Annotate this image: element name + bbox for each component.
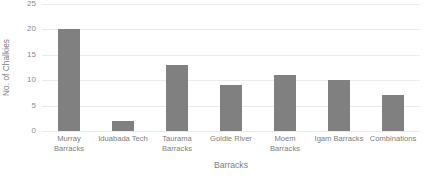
x-axis-tick-label: Igam Barracks bbox=[312, 134, 366, 144]
bar[interactable] bbox=[382, 95, 404, 131]
y-axis-title: No. of Chalkies bbox=[0, 0, 14, 135]
clipped-chart-title bbox=[42, 0, 420, 3]
x-axis-tick-label: Moem Barracks bbox=[258, 134, 312, 153]
bar-slot bbox=[312, 4, 366, 131]
bar[interactable] bbox=[274, 75, 296, 131]
y-axis-tick-label: 5 bbox=[32, 102, 36, 110]
bars-layer bbox=[42, 4, 420, 131]
y-axis-tick-label: 0 bbox=[32, 127, 36, 135]
bar[interactable] bbox=[166, 65, 188, 131]
x-axis-tick-label: Murray Barracks bbox=[42, 134, 96, 153]
x-axis-tick-label: Taurama Barracks bbox=[150, 134, 204, 153]
bar-slot bbox=[366, 4, 420, 131]
y-axis-tick-label: 20 bbox=[27, 25, 36, 33]
x-axis-title: Barracks bbox=[42, 160, 420, 170]
bar-slot bbox=[42, 4, 96, 131]
y-axis-tick-label: 15 bbox=[27, 51, 36, 59]
x-axis-tick-labels: Murray BarracksIduabada TechTaurama Barr… bbox=[42, 134, 420, 162]
bar[interactable] bbox=[112, 121, 134, 131]
gridline bbox=[42, 131, 420, 132]
y-axis-tick-label: 25 bbox=[27, 0, 36, 8]
bar-chart: No. of Chalkies 0510152025 Murray Barrac… bbox=[0, 0, 428, 183]
x-axis-tick-label: Combinations bbox=[366, 134, 420, 144]
bar-slot bbox=[96, 4, 150, 131]
x-axis-tick-label: Iduabada Tech bbox=[96, 134, 150, 144]
bar-slot bbox=[150, 4, 204, 131]
y-axis-tick-label: 10 bbox=[27, 76, 36, 84]
bar-slot bbox=[204, 4, 258, 131]
bar[interactable] bbox=[220, 85, 242, 131]
plot-area bbox=[42, 4, 420, 131]
x-axis-tick-label: Goldie River bbox=[204, 134, 258, 144]
y-axis-title-label: No. of Chalkies bbox=[3, 39, 12, 96]
bar-slot bbox=[258, 4, 312, 131]
bar[interactable] bbox=[58, 29, 80, 131]
bar[interactable] bbox=[328, 80, 350, 131]
y-axis-tick-labels: 0510152025 bbox=[14, 0, 40, 135]
